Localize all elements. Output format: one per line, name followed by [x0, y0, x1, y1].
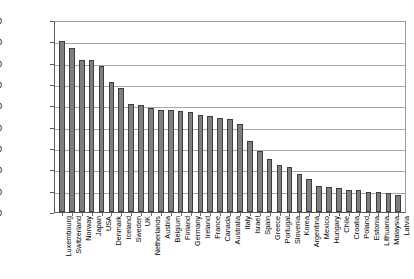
y-axis-tick-mark [50, 64, 54, 65]
bar-slot [354, 22, 364, 212]
bar-slot [77, 22, 87, 212]
bar [237, 124, 243, 212]
bar [247, 141, 253, 212]
x-axis-label-slot: Poland [354, 214, 364, 278]
x-axis-tick-label: Latvia [402, 216, 409, 235]
bar-slot [186, 22, 196, 212]
y-axis-tick-label: 0 [0, 209, 2, 217]
bar-slot [156, 22, 166, 212]
x-axis-label-slot: Luxembourg [56, 214, 66, 278]
bar-slot [393, 22, 403, 212]
y-axis-tick-label: 5,000 [0, 188, 2, 196]
x-axis-label-slot: Portugal [275, 214, 285, 278]
x-axis-label-slot: USA [96, 214, 106, 278]
bar-slot [364, 22, 374, 212]
bar [89, 60, 95, 212]
bar-slot [67, 22, 77, 212]
bar-slot [136, 22, 146, 212]
x-axis-label-slot: Finland [175, 214, 185, 278]
y-axis-tick-label: 20,000 [0, 124, 2, 132]
bar [118, 88, 124, 212]
bar [69, 48, 75, 212]
x-axis-label-slot: Argentina [304, 214, 314, 278]
bar-slot [195, 22, 205, 212]
x-axis-label-slot: Netherlands [145, 214, 155, 278]
bar-slot [215, 22, 225, 212]
x-axis-label-slot: Mexico [314, 214, 324, 278]
bar [336, 188, 342, 212]
bar [297, 174, 303, 212]
bar-chart: 45,00040,00035,00030,00025,00020,00015,0… [0, 0, 414, 279]
x-axis-label-slot: Switzerland [66, 214, 76, 278]
y-axis-tick-label: 25,000 [0, 102, 2, 110]
bar-slot [166, 22, 176, 212]
x-axis-label-slot: Denmark [106, 214, 116, 278]
y-axis-tick-label: 30,000 [0, 81, 2, 89]
bar [386, 193, 392, 212]
x-axis-label-slot: Sweden [126, 214, 136, 278]
bar-series [55, 22, 405, 212]
bar-slot [294, 22, 304, 212]
bar-slot [383, 22, 393, 212]
bar-slot [245, 22, 255, 212]
bar-slot [304, 22, 314, 212]
x-axis-label-slot: Iceland [116, 214, 126, 278]
bar-slot [324, 22, 334, 212]
bar-slot [374, 22, 384, 212]
x-axis-label-slot: Estonia [364, 214, 374, 278]
y-axis-tick-mark [50, 170, 54, 171]
bar-slot [334, 22, 344, 212]
x-axis-label-slot: Korea [295, 214, 305, 278]
x-axis-label-slot: Norway [76, 214, 86, 278]
x-axis-label-slot: Australia [225, 214, 235, 278]
bar-slot [106, 22, 116, 212]
y-axis-tick-label: 35,000 [0, 60, 2, 68]
y-axis-tick-mark [50, 85, 54, 86]
y-axis-tick-mark [50, 149, 54, 150]
bar-slot [275, 22, 285, 212]
bar [109, 82, 115, 212]
bar-slot [284, 22, 294, 212]
x-axis-label-slot: Greece [265, 214, 275, 278]
bar-slot [314, 22, 324, 212]
bar-slot [265, 22, 275, 212]
bar [168, 110, 174, 212]
x-axis-label-slot: Spain [255, 214, 265, 278]
bar [178, 111, 184, 212]
bar [287, 167, 293, 212]
bar [395, 195, 401, 212]
x-axis-label-slot: Ireland [195, 214, 205, 278]
x-axis-label-slot: Malaysia [384, 214, 394, 278]
bar [316, 186, 322, 212]
bar [376, 192, 382, 212]
bar-slot [176, 22, 186, 212]
bar [257, 151, 263, 212]
bar [366, 192, 372, 212]
x-axis-label-slot: Belgium [165, 214, 175, 278]
bar-slot [344, 22, 354, 212]
bar-slot [87, 22, 97, 212]
y-axis-tick-mark [50, 192, 54, 193]
bar-slot [126, 22, 136, 212]
bar-slot [255, 22, 265, 212]
x-axis-label-slot: Lithuania [374, 214, 384, 278]
x-axis-labels: LuxembourgSwitzerlandNorwayJapanUSADenma… [54, 214, 406, 278]
bar [277, 165, 283, 212]
bar [356, 190, 362, 212]
y-axis-tick-mark [50, 42, 54, 43]
y-axis-tick-label: 45,000 [0, 17, 2, 25]
x-axis-label-slot: Latvia [394, 214, 404, 278]
bar [128, 104, 134, 212]
x-axis-label-slot: UK [136, 214, 146, 278]
bar [198, 115, 204, 212]
x-axis-label-slot: Slovenia [285, 214, 295, 278]
plot-area [54, 21, 406, 213]
x-axis-label-slot: Hungary [324, 214, 334, 278]
x-axis-label-slot: Austria [155, 214, 165, 278]
bar [326, 187, 332, 212]
x-axis-label-slot: Italy [235, 214, 245, 278]
x-axis-label-slot: France [205, 214, 215, 278]
bar [59, 41, 65, 212]
y-axis-tick-mark [50, 106, 54, 107]
bar-slot [235, 22, 245, 212]
